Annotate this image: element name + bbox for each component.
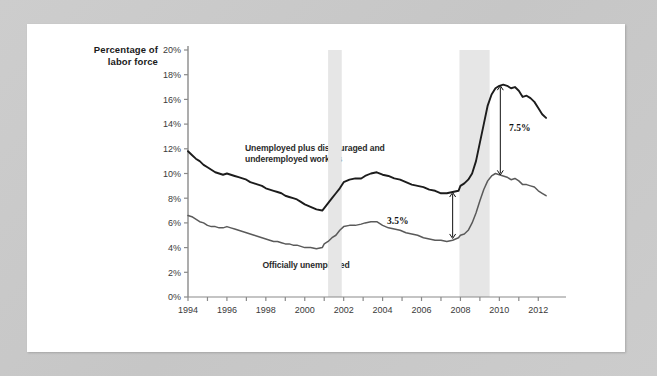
- x-tick-label: 1998: [256, 305, 276, 315]
- y-tick-label: 12%: [163, 144, 181, 154]
- x-tick-label: 2000: [295, 305, 315, 315]
- recession-bands: [328, 50, 490, 297]
- figure-page: Percentage of labor force Unemployed plu…: [27, 24, 625, 352]
- annotation-arrow-gap-2007: [450, 193, 456, 239]
- y-tick-label: 0%: [168, 292, 181, 302]
- x-tick-label: 2002: [334, 305, 354, 315]
- y-tick-label: 6%: [168, 218, 181, 228]
- y-tick-label: 10%: [163, 169, 181, 179]
- x-tick-label: 2010: [489, 305, 509, 315]
- annotation-arrow-gap-2010: [497, 86, 503, 175]
- recession-2001: [328, 50, 342, 297]
- chart-tick-labels: 0%2%4%6%8%10%12%14%16%18%20%199419961998…: [163, 45, 548, 315]
- y-tick-label: 14%: [163, 119, 181, 129]
- series-line-1: [188, 174, 546, 249]
- series-line-0: [188, 85, 546, 211]
- x-tick-label: 1996: [217, 305, 237, 315]
- recession-2008: [459, 50, 489, 297]
- y-tick-label: 18%: [163, 70, 181, 80]
- x-tick-label: 2008: [450, 305, 470, 315]
- chart-series-lines: [188, 85, 546, 249]
- x-tick-label: 2006: [411, 305, 431, 315]
- x-tick-label: 2004: [373, 305, 393, 315]
- y-tick-label: 20%: [163, 45, 181, 55]
- chart-svg: 0%2%4%6%8%10%12%14%16%18%20%199419961998…: [27, 24, 625, 352]
- y-tick-label: 8%: [168, 194, 181, 204]
- y-tick-label: 16%: [163, 95, 181, 105]
- screenshot-root: Percentage of labor force Unemployed plu…: [0, 0, 657, 376]
- y-tick-label: 4%: [168, 243, 181, 253]
- y-tick-label: 2%: [168, 268, 181, 278]
- x-tick-label: 1994: [178, 305, 198, 315]
- x-tick-label: 2012: [528, 305, 548, 315]
